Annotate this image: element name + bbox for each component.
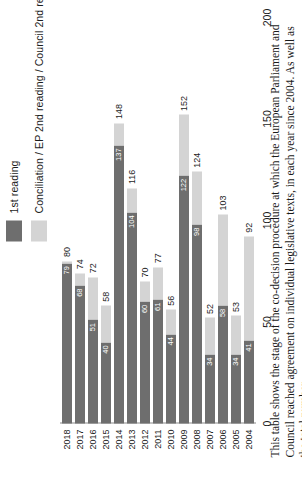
segment-value-label: 137 xyxy=(115,148,123,161)
bar-segment: 40 xyxy=(101,342,111,423)
plot-area: 050100150200 201879802017687420165172201… xyxy=(60,17,256,423)
bar-segment: 68 xyxy=(75,285,85,423)
bar-row: 2013104116 xyxy=(127,17,137,423)
bar-segment xyxy=(179,114,189,175)
bar-row: 2014137148 xyxy=(114,17,124,423)
bar-total-label: 77 xyxy=(153,253,163,263)
bar-segment: 51 xyxy=(88,319,98,423)
bar-segment: 61 xyxy=(153,299,163,423)
bar-segment xyxy=(62,261,72,263)
segment-value-label: 68 xyxy=(76,288,84,296)
legend-label-first-reading: 1st reading xyxy=(8,160,20,213)
category-label: 2008 xyxy=(192,429,202,449)
bar-segment xyxy=(218,214,228,305)
segment-value-label: 34 xyxy=(206,357,214,365)
segment-value-label: 58 xyxy=(219,308,227,316)
segment-value-label: 98 xyxy=(193,227,201,235)
bar-segment xyxy=(75,273,85,285)
bar-segment: 122 xyxy=(179,175,189,423)
segment-value-label: 122 xyxy=(180,178,188,191)
bar-row: 20126070 xyxy=(140,17,150,423)
segment-value-label: 61 xyxy=(154,302,162,310)
bar-row: 20104456 xyxy=(166,17,176,423)
chart-legend: 1st reading Conciliation / EP 2nd readin… xyxy=(6,0,47,241)
legend-swatch-conciliation xyxy=(31,220,47,241)
figure-caption: This table shows the stage of the co-dec… xyxy=(268,17,302,457)
bar-segment xyxy=(231,315,241,354)
bar-segment: 104 xyxy=(127,212,137,423)
category-label: 2014 xyxy=(114,429,124,449)
rotated-figure-container: 1st reading Conciliation / EP 2nd readin… xyxy=(0,0,302,479)
bar-segment: 60 xyxy=(140,301,150,423)
segment-value-label: 51 xyxy=(89,322,97,330)
bar-total-label: 52 xyxy=(205,303,215,313)
bar-segment: 58 xyxy=(218,305,228,423)
segment-value-label: 79 xyxy=(63,266,71,274)
bar-total-label: 74 xyxy=(75,259,85,269)
category-label: 2018 xyxy=(62,429,72,449)
category-label: 2017 xyxy=(75,429,85,449)
bar-segment xyxy=(101,305,111,342)
category-label: 2006 xyxy=(218,429,228,449)
category-label: 2005 xyxy=(231,429,241,449)
bar-row: 20176874 xyxy=(75,17,85,423)
bar-segment: 34 xyxy=(231,354,241,423)
bar-segment xyxy=(205,317,215,354)
bar-total-label: 70 xyxy=(140,267,150,277)
category-label: 2015 xyxy=(101,429,111,449)
segment-value-label: 44 xyxy=(167,337,175,345)
bar-row: 2009122152 xyxy=(179,17,189,423)
segment-value-label: 40 xyxy=(102,345,110,353)
segment-value-label: 41 xyxy=(245,343,253,351)
bar-row: 20053453 xyxy=(231,17,241,423)
bar-segment: 44 xyxy=(166,334,176,423)
bar-row: 20165172 xyxy=(88,17,98,423)
bar-segment xyxy=(114,123,124,145)
bar-segment xyxy=(244,236,254,340)
bar-total-label: 56 xyxy=(166,295,176,305)
bar-segment: 137 xyxy=(114,145,124,423)
category-label: 2016 xyxy=(88,429,98,449)
legend-item-conciliation: Conciliation / EP 2nd reading / Council … xyxy=(31,0,47,241)
bar-row: 20154058 xyxy=(101,17,111,423)
segment-value-label: 60 xyxy=(141,304,149,312)
bar-total-label: 124 xyxy=(192,152,202,167)
legend-swatch-first-reading xyxy=(6,220,22,241)
bar-row: 20073452 xyxy=(205,17,215,423)
bar-total-label: 116 xyxy=(127,169,137,183)
bar-segment: 41 xyxy=(244,340,254,423)
bar-row: 200898124 xyxy=(192,17,202,423)
category-label: 2012 xyxy=(140,429,150,449)
category-label: 2010 xyxy=(166,429,176,449)
bar-segment xyxy=(192,171,202,224)
category-label: 2013 xyxy=(127,429,137,449)
bar-segment xyxy=(153,267,163,299)
bar-segment xyxy=(127,188,137,212)
bar-total-label: 80 xyxy=(62,247,72,257)
segment-value-label: 104 xyxy=(128,215,136,228)
bar-segment: 79 xyxy=(62,263,72,423)
bar-segment xyxy=(166,309,176,333)
bar-row: 20044192 xyxy=(244,17,254,423)
stacked-bar-chart: 1st reading Conciliation / EP 2nd readin… xyxy=(0,0,302,479)
bar-total-label: 152 xyxy=(179,95,189,110)
bar-row: 20187980 xyxy=(62,17,72,423)
bar-row: 20116177 xyxy=(153,17,163,423)
bar-total-label: 58 xyxy=(101,291,111,301)
bar-segment xyxy=(140,281,150,301)
legend-item-first-reading: 1st reading xyxy=(6,0,22,241)
category-label: 2009 xyxy=(179,429,189,449)
bar-total-label: 53 xyxy=(231,301,241,311)
bar-segment: 98 xyxy=(192,224,202,423)
bar-total-label: 148 xyxy=(114,104,124,119)
bar-total-label: 103 xyxy=(218,195,228,210)
bar-total-label: 92 xyxy=(244,222,254,232)
category-label: 2007 xyxy=(205,429,215,449)
bar-segment xyxy=(88,277,98,320)
category-label: 2011 xyxy=(153,429,163,448)
category-label: 2004 xyxy=(244,429,254,449)
segment-value-label: 34 xyxy=(232,357,240,365)
bar-series-container: 2018798020176874201651722015405820141371… xyxy=(60,17,256,423)
bar-row: 200658103 xyxy=(218,17,228,423)
legend-label-conciliation: Conciliation / EP 2nd reading / Council … xyxy=(33,0,45,213)
